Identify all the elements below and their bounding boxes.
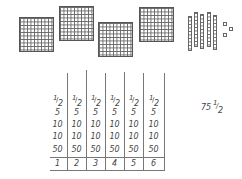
value-cell: 50	[105, 145, 124, 155]
value-cell: 5	[144, 108, 163, 118]
fraction-half: 1/2	[67, 94, 86, 108]
column-index: 5	[124, 159, 143, 169]
ten-rod-3	[200, 14, 204, 49]
ten-rod-1	[188, 16, 192, 51]
value-cell: 10	[86, 120, 105, 130]
ten-rod-4	[207, 12, 211, 47]
value-cell: 50	[48, 145, 67, 155]
value-cell: 10	[48, 132, 67, 142]
column-index: 2	[67, 159, 86, 169]
value-cell: 50	[86, 145, 105, 155]
value-cell: 10	[124, 120, 143, 130]
hundred-flat-3	[98, 22, 133, 57]
hundred-flat-2	[59, 6, 94, 41]
value-cell: 5	[124, 108, 143, 118]
fraction-half: 1/2	[144, 94, 163, 108]
value-cell: 10	[86, 132, 105, 142]
fraction-half: 1/2	[124, 94, 143, 108]
unit-cube-2	[229, 27, 233, 31]
table-bottom-border	[50, 170, 165, 171]
ten-rod-5	[213, 15, 217, 50]
value-cell: 10	[105, 120, 124, 130]
value-cell: 50	[144, 145, 163, 155]
column-index: 6	[144, 159, 163, 169]
value-cell: 5	[86, 108, 105, 118]
fraction-half: 1/2	[86, 94, 105, 108]
value-cell: 10	[124, 132, 143, 142]
value-cell: 5	[48, 108, 67, 118]
fraction-half: 1/2	[48, 94, 67, 108]
value-cell: 10	[67, 120, 86, 130]
value-cell: 50	[124, 145, 143, 155]
fraction-half: 1/2	[105, 94, 124, 108]
value-cell: 5	[67, 108, 86, 118]
value-cell: 10	[144, 132, 163, 142]
unit-cube-3	[223, 33, 227, 37]
value-cell: 10	[48, 120, 67, 130]
unit-cube-1	[223, 22, 227, 26]
table-row-separator	[50, 157, 165, 158]
total-value: 751/2	[201, 103, 211, 112]
column-index: 4	[105, 159, 124, 169]
value-cell: 5	[105, 108, 124, 118]
value-cell: 50	[67, 145, 86, 155]
hundred-flat-1	[19, 17, 54, 52]
column-index: 3	[86, 159, 105, 169]
value-cell: 10	[67, 132, 86, 142]
ten-rod-2	[194, 12, 198, 47]
hundred-flat-4	[139, 7, 174, 42]
table-divider	[164, 73, 165, 170]
value-cell: 10	[105, 132, 124, 142]
value-cell: 10	[144, 120, 163, 130]
column-index: 1	[48, 159, 67, 169]
